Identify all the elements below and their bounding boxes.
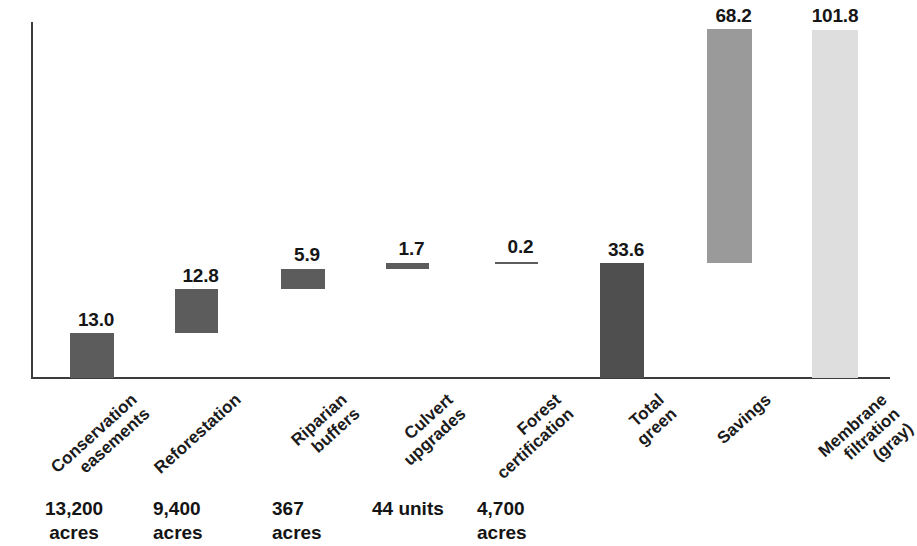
footnote-conservation-easements: 13,200acres [45,497,103,546]
bar-value-label-reforestation: 12.8 [175,266,226,285]
bar-value-label-savings: 68.2 [707,6,760,25]
footnote-line: 13,200 [45,497,103,521]
bar-total-green [600,263,644,378]
footnote-culvert-upgrades: 44 units [372,497,444,521]
bar-riparian-buffers [281,269,325,289]
footnote-line: acres [45,521,103,545]
footnote-line: acres [477,521,527,545]
bar-conservation-easements [70,333,114,378]
footnote-forest-certification: 4,700acres [477,497,527,546]
footnote-line: acres [272,521,322,545]
footnote-reforestation: 9,400acres [153,497,203,546]
footnote-riparian-buffers: 367acres [272,497,322,546]
bar-value-label-total-green: 33.6 [600,240,652,259]
bar-savings [707,29,752,263]
bar-value-label-forest-certification: 0.2 [495,237,546,256]
y-axis-line [31,22,33,378]
bar-value-label-culvert-upgrades: 1.7 [386,239,437,258]
bar-forest-certification [495,262,538,264]
bar-reforestation [175,289,218,333]
footnote-line: 9,400 [153,497,203,521]
plot-area: 13.012.85.91.70.233.668.2101.8 [0,0,896,380]
footnote-line: 367 [272,497,322,521]
bar-culvert-upgrades [386,263,429,269]
bar-value-label-riparian-buffers: 5.9 [281,245,333,264]
x-axis-line [31,377,890,379]
footnote-line: 4,700 [477,497,527,521]
bar-value-label-conservation-easements: 13.0 [70,310,122,329]
footnote-line: 44 units [372,497,444,521]
bar-value-label-membrane-filtration: 101.8 [808,6,862,25]
footnote-line: acres [153,521,203,545]
bar-membrane-filtration [812,30,858,378]
